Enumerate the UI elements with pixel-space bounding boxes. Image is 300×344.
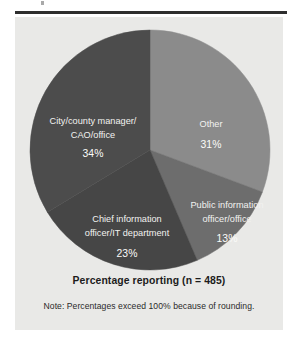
slice-value-public-information: 13% bbox=[217, 233, 238, 244]
header-rule bbox=[15, 11, 287, 14]
figure-caption: Percentage reporting (n = 485) bbox=[15, 275, 283, 286]
slice-label-chief-information-line1: Chief information bbox=[92, 214, 161, 224]
figure-panel: Other 31% Public information officer/off… bbox=[15, 17, 283, 330]
slice-value-city-county: 34% bbox=[83, 148, 104, 159]
pie-chart: Other 31% Public information officer/off… bbox=[15, 17, 283, 275]
slice-label-public-information-line2: officer/office bbox=[202, 214, 251, 224]
slice-label-other-line1: Other bbox=[200, 119, 223, 129]
slice-label-city-county-line2: CAO/office bbox=[71, 130, 115, 140]
slice-label-chief-information-line2: officer/IT department bbox=[85, 228, 170, 238]
figure-note: Note: Percentages exceed 100% because of… bbox=[15, 301, 283, 311]
slice-label-public-information-line1: Public information bbox=[190, 200, 263, 210]
slice-value-other: 31% bbox=[201, 139, 222, 150]
scan-speck-artifact bbox=[41, 1, 44, 5]
slice-value-chief-information: 23% bbox=[117, 248, 138, 259]
slice-label-city-county-line1: City/county manager/ bbox=[50, 116, 137, 126]
pie-chart-svg: Other 31% Public information officer/off… bbox=[15, 17, 283, 275]
